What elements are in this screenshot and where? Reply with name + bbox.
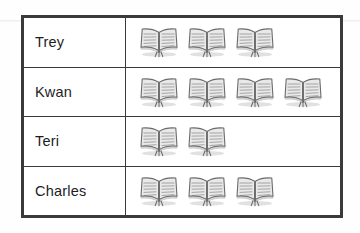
icon-strip [134, 68, 340, 117]
row-label-trey: Trey [24, 18, 126, 68]
open-book-icon [138, 75, 180, 109]
open-book-icon [138, 124, 180, 158]
row-icons-teri [126, 117, 341, 167]
open-book-icon [186, 124, 228, 158]
icon-strip [134, 18, 340, 67]
screenshot-root: Trey Kwan Teri [0, 0, 360, 233]
pictograph-table-body: Trey Kwan Teri [24, 18, 341, 216]
open-book-icon [282, 75, 324, 109]
row-label-teri: Teri [24, 117, 126, 167]
row-icons-trey [126, 18, 341, 68]
table-row: Teri [24, 117, 341, 167]
pictograph-table-grid: Trey Kwan Teri [23, 17, 341, 216]
pictograph-table: Trey Kwan Teri [21, 15, 343, 218]
icon-strip [134, 117, 340, 166]
table-row: Kwan [24, 67, 341, 117]
open-book-icon [234, 75, 276, 109]
open-book-icon [234, 174, 276, 208]
open-book-icon [186, 174, 228, 208]
table-row: Trey [24, 18, 341, 68]
table-row: Charles [24, 166, 341, 216]
row-label-charles: Charles [24, 166, 126, 216]
open-book-icon [138, 25, 180, 59]
icon-strip [134, 167, 340, 216]
row-label-kwan: Kwan [24, 67, 126, 117]
open-book-icon [186, 25, 228, 59]
row-icons-kwan [126, 67, 341, 117]
open-book-icon [138, 174, 180, 208]
row-icons-charles [126, 166, 341, 216]
open-book-icon [234, 25, 276, 59]
open-book-icon [186, 75, 228, 109]
